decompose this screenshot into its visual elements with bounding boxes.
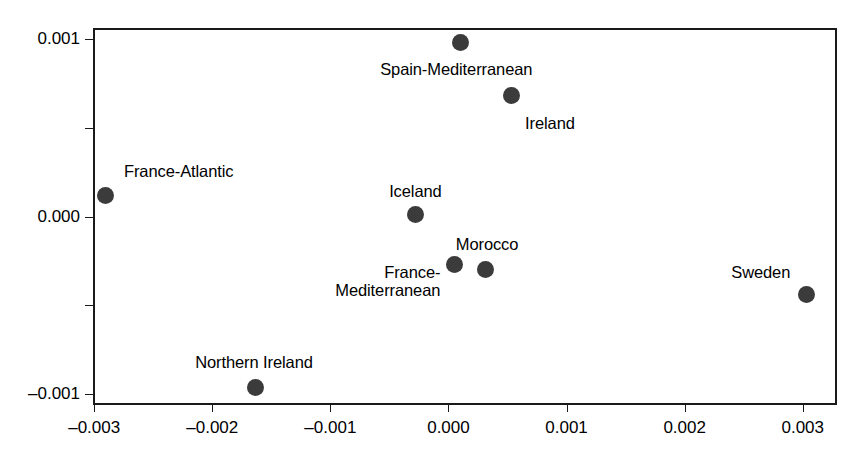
y-axis-tick	[85, 217, 93, 218]
data-point-marker	[477, 261, 494, 278]
data-point-marker	[503, 87, 520, 104]
x-axis-tick	[212, 405, 213, 412]
data-point-marker	[446, 256, 463, 273]
x-axis-tick-label: 0.002	[663, 418, 706, 438]
y-axis-tick-label: 0.000	[0, 207, 80, 227]
data-point-label-line: Morocco	[456, 235, 519, 253]
plot-area-frame	[93, 28, 837, 405]
data-point-label-line: France-	[335, 263, 440, 281]
x-axis-tick-label: –0.001	[304, 418, 356, 438]
x-axis-tick	[803, 405, 804, 412]
x-axis-tick	[567, 405, 568, 412]
y-axis-tick-label: 0.001	[0, 29, 80, 49]
data-point-label: Ireland	[525, 114, 575, 132]
data-point-label-line: Northern Ireland	[195, 353, 313, 371]
data-point-label: Iceland	[389, 182, 442, 200]
data-point-label-line: Iceland	[389, 182, 442, 200]
x-axis-tick	[94, 405, 95, 412]
x-axis-tick-label: –0.003	[68, 418, 120, 438]
data-point-label: Spain-Mediterranean	[380, 60, 532, 78]
y-axis-tick	[85, 39, 93, 40]
y-axis-tick	[85, 394, 93, 395]
x-axis-tick-label: 0.003	[781, 418, 824, 438]
data-point-label: France-Mediterranean	[335, 263, 440, 299]
y-axis-tick	[85, 305, 93, 306]
data-point-marker	[407, 206, 424, 223]
y-axis-tick-label: –0.001	[0, 384, 80, 404]
x-axis-tick-label: 0.000	[427, 418, 470, 438]
x-axis-tick	[330, 405, 331, 412]
scatter-plot-figure: –0.0010.0000.001 –0.003–0.002–0.0010.000…	[0, 0, 856, 470]
y-axis-tick	[85, 128, 93, 129]
data-point-label-line: Mediterranean	[335, 281, 440, 299]
x-axis-tick-label: –0.002	[186, 418, 238, 438]
data-point-label-line: Sweden	[731, 263, 790, 281]
data-point-label-line: Spain-Mediterranean	[380, 60, 532, 78]
x-axis-tick	[685, 405, 686, 412]
data-point-label: Sweden	[731, 263, 790, 281]
data-point-label-line: Ireland	[525, 114, 575, 132]
data-point-label: Northern Ireland	[195, 353, 313, 371]
data-point-label: France-Atlantic	[124, 162, 233, 180]
data-point-label-line: France-Atlantic	[124, 162, 233, 180]
x-axis-tick-label: 0.001	[545, 418, 588, 438]
data-point-marker	[452, 34, 469, 51]
data-point-marker	[798, 286, 815, 303]
data-point-label: Morocco	[456, 235, 519, 253]
x-axis-tick	[448, 405, 449, 412]
